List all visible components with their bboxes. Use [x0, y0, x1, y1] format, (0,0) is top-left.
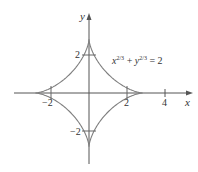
y-tick-label-2: 2	[75, 49, 80, 60]
astroid-plot: y x −2 2 4 2 −2 x2/3 + y2/3 = 2	[0, 0, 198, 172]
x-tick-label-neg2: −2	[42, 97, 53, 108]
astroid-figure: y x −2 2 4 2 −2 x2/3 + y2/3 = 2	[0, 0, 198, 172]
x-axis-label: x	[184, 96, 190, 108]
x-tick-label-2: 2	[124, 97, 129, 108]
y-axis-arrow-icon	[87, 13, 92, 20]
x-tick-label-4: 4	[162, 97, 167, 108]
y-axis-label: y	[79, 10, 85, 22]
y-tick-label-neg2: −2	[70, 126, 81, 137]
equation-label: x2/3 + y2/3 = 2	[111, 55, 163, 66]
x-axis-arrow-icon	[186, 91, 193, 96]
